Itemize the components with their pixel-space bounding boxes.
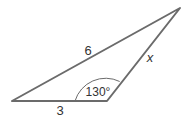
- triangle-diagram: 6 3 x 130°: [0, 0, 185, 123]
- side-label-3: 3: [56, 103, 63, 118]
- side-label-x: x: [146, 50, 154, 65]
- side-label-6: 6: [84, 43, 91, 58]
- angle-label: 130°: [86, 85, 111, 99]
